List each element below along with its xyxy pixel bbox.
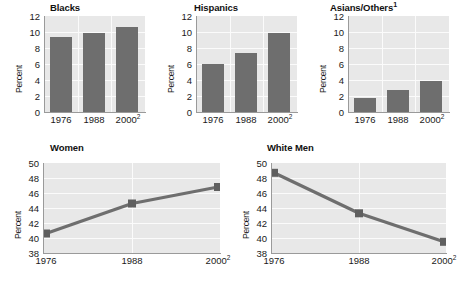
- x-axis-ticks-asians-others: 1976 1988 20002: [349, 115, 449, 129]
- y-tick: 48: [28, 173, 39, 182]
- y-tick: 48: [256, 173, 267, 182]
- y-tick: 40: [28, 233, 39, 242]
- chart-title-text: White Men: [267, 142, 314, 153]
- vertical-gridline: [382, 16, 383, 112]
- chart-title-hispanics: Hispanics: [194, 2, 238, 13]
- plot-area-asians-others: [349, 16, 449, 112]
- y-tick: 4: [187, 75, 192, 84]
- x-axis-line: [44, 112, 146, 113]
- chart-title-text: Hispanics: [194, 2, 238, 13]
- data-marker-1976: [272, 169, 278, 177]
- x-axis-line: [348, 112, 450, 113]
- panel-asians-others: Asians/Others1 Percent 12 10 8 6 4 2 0 1…: [304, 0, 454, 134]
- gridline: [349, 48, 449, 49]
- line-path: [46, 187, 218, 234]
- y-axis-ticks-white-men: 50 48 46 44 42 40 38: [245, 163, 267, 253]
- data-marker-1976: [44, 230, 50, 238]
- plot-area-white-men: [272, 163, 446, 253]
- y-tick: 50: [256, 159, 267, 168]
- bar-2000: [268, 33, 290, 112]
- x-tick-1988: 1988: [338, 256, 380, 266]
- plot-area-hispanics: [197, 16, 297, 112]
- y-tick: 2: [187, 91, 192, 100]
- y-tick: 2: [35, 91, 40, 100]
- line-path: [274, 173, 444, 242]
- x-tick-2000: 20002: [106, 115, 150, 125]
- vertical-gridline: [415, 16, 416, 112]
- bar-1988: [235, 53, 257, 112]
- bar-1988: [387, 90, 409, 112]
- bar-1988: [83, 33, 105, 112]
- y-tick: 6: [35, 60, 40, 69]
- y-tick: 8: [35, 43, 40, 52]
- x-axis-ticks-hispanics: 1976 1988 20002: [197, 115, 297, 129]
- y-tick: 8: [187, 43, 192, 52]
- panel-white-men: White Men Percent 50 48 46 44 42 40 38 1…: [228, 140, 454, 281]
- y-tick: 12: [333, 12, 344, 21]
- vertical-gridline: [78, 16, 79, 112]
- bar-1976: [354, 98, 376, 112]
- y-tick: 12: [181, 12, 192, 21]
- panel-women: Women Percent 50 48 46 44 42 40 38 1976 …: [0, 140, 228, 281]
- y-tick: 10: [333, 27, 344, 36]
- y-tick: 50: [28, 159, 39, 168]
- y-axis-ticks-asians-others: 12 10 8 6 4 2 0: [322, 16, 344, 112]
- vertical-gridline: [263, 16, 264, 112]
- x-tick-1988: 1988: [111, 256, 153, 266]
- data-marker-2000: [214, 183, 220, 191]
- x-axis-ticks-blacks: 1976 1988 20002: [45, 115, 145, 129]
- x-axis-line: [271, 253, 447, 254]
- x-tick-2000: 20002: [258, 115, 302, 125]
- x-axis-line: [196, 112, 298, 113]
- chart-title-women: Women: [50, 142, 84, 153]
- y-tick: 46: [28, 188, 39, 197]
- y-tick: 42: [256, 218, 267, 227]
- line-series-women: [44, 163, 220, 253]
- y-tick: 44: [28, 204, 39, 213]
- y-axis-ticks-blacks: 12 10 8 6 4 2 0: [18, 16, 40, 112]
- x-axis-ticks-women: 1976 1988 20002: [44, 256, 220, 270]
- x-axis-line: [43, 253, 221, 254]
- y-tick: 6: [339, 60, 344, 69]
- y-tick: 8: [339, 43, 344, 52]
- y-tick: 46: [256, 188, 267, 197]
- y-tick: 10: [29, 27, 40, 36]
- y-tick: 4: [339, 75, 344, 84]
- y-tick: 40: [256, 233, 267, 242]
- bar-2000: [420, 81, 442, 112]
- bar-2000: [116, 27, 138, 112]
- y-axis-ticks-hispanics: 12 10 8 6 4 2 0: [170, 16, 192, 112]
- data-marker-1988: [128, 200, 136, 208]
- y-tick: 2: [339, 91, 344, 100]
- vertical-gridline: [111, 16, 112, 112]
- y-tick: 12: [29, 12, 40, 21]
- line-series-white-men: [272, 163, 446, 253]
- y-tick: 6: [187, 60, 192, 69]
- chart-title-white-men: White Men: [267, 142, 314, 153]
- x-tick-2000: 20002: [422, 256, 461, 266]
- chart-title-text: Blacks: [50, 2, 80, 13]
- data-marker-1988: [355, 209, 363, 217]
- bar-1976: [202, 64, 224, 112]
- chart-title-text: Women: [50, 142, 84, 153]
- y-tick: 10: [181, 27, 192, 36]
- x-tick-2000: 20002: [410, 115, 454, 125]
- bar-1976: [50, 37, 72, 112]
- gridline: [349, 64, 449, 65]
- x-tick-1976: 1976: [25, 256, 67, 266]
- plot-area-blacks: [45, 16, 145, 112]
- gridline: [349, 32, 449, 33]
- y-tick: 42: [28, 218, 39, 227]
- x-axis-ticks-white-men: 1976 1988 20002: [272, 256, 446, 270]
- data-marker-2000: [440, 238, 446, 246]
- y-axis-ticks-women: 50 48 46 44 42 40 38: [17, 163, 39, 253]
- panel-blacks: Blacks Percent 12 10 8 6 4 2 0 1976 1988…: [0, 0, 152, 134]
- chart-title-blacks: Blacks: [50, 2, 80, 13]
- plot-area-women: [44, 163, 220, 253]
- vertical-gridline: [230, 16, 231, 112]
- x-tick-1976: 1976: [253, 256, 295, 266]
- y-tick: 4: [35, 75, 40, 84]
- y-tick: 44: [256, 204, 267, 213]
- panel-hispanics: Hispanics Percent 12 10 8 6 4 2 0 1976 1…: [152, 0, 304, 134]
- chart-title-superscript: 1: [393, 1, 397, 8]
